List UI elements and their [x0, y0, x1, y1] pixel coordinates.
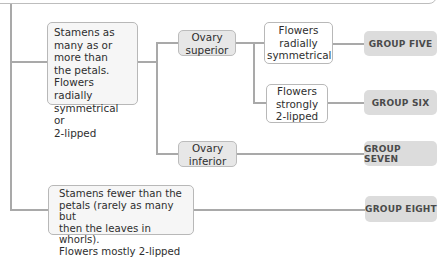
connector-to-group-five: [333, 43, 364, 45]
top-frame-edge: [0, 0, 437, 4]
node-ovary-inferior: Ovary inferior: [178, 141, 237, 167]
text-line: more than: [54, 51, 131, 64]
text-line: inferior: [181, 155, 234, 168]
text-line: petals (rarely as many but: [59, 200, 183, 223]
text-line: Flowers mostly 2-lipped: [59, 246, 183, 257]
node-flowers-radial: Flowers radially symmetrical: [264, 22, 333, 64]
node-ovary-superior: Ovary superior: [178, 30, 236, 56]
connector-main-vertical: [10, 4, 12, 211]
text-line: 2-lipped: [269, 110, 325, 123]
group-seven-label: GROUP SEVEN: [364, 141, 437, 166]
text-line: Flowers: [267, 24, 330, 37]
text-line: many as or: [54, 39, 131, 52]
group-eight-label: GROUP EIGHT: [365, 196, 437, 222]
node-flowers-2lipped: Flowers strongly 2-lipped: [266, 84, 328, 123]
text-line: symmetrical: [267, 49, 330, 62]
connector-ovary-vertical: [156, 42, 158, 155]
connector-to-group-six: [328, 102, 364, 104]
connector-stamens-many-out: [138, 61, 158, 63]
connector-flowers-vertical: [253, 42, 255, 104]
connector-to-ovary-superior: [156, 42, 178, 44]
text-line: Stamens fewer than the: [59, 188, 183, 200]
connector-to-stamens-fewer: [10, 209, 48, 211]
text-line: symmetrical or: [54, 102, 131, 127]
text-line: 2-lipped: [54, 127, 131, 140]
connector-to-ovary-inferior: [156, 153, 178, 155]
text-line: strongly: [269, 98, 325, 111]
group-six-label: GROUP SIX: [364, 90, 437, 115]
connector-ovary-superior-out: [236, 42, 264, 44]
text-line: Flowers radially: [54, 76, 131, 101]
text-line: Stamens as: [54, 26, 131, 39]
text-line: Ovary: [181, 31, 233, 44]
connector-to-flowers-2lipped: [253, 102, 266, 104]
text-line: radially: [267, 37, 330, 50]
connector-to-group-seven: [237, 153, 364, 155]
group-five-label: GROUP FIVE: [364, 31, 437, 56]
text-line: superior: [181, 44, 233, 57]
text-line: Ovary: [181, 142, 234, 155]
node-stamens-many: Stamens as many as or more than the peta…: [47, 22, 138, 105]
connector-to-group-eight: [194, 209, 365, 211]
text-line: the petals.: [54, 64, 131, 77]
node-stamens-fewer: Stamens fewer than the petals (rarely as…: [48, 185, 194, 235]
text-line: then the leaves in whorls).: [59, 223, 183, 246]
connector-to-stamens-many: [10, 61, 48, 63]
text-line: Flowers: [269, 85, 325, 98]
